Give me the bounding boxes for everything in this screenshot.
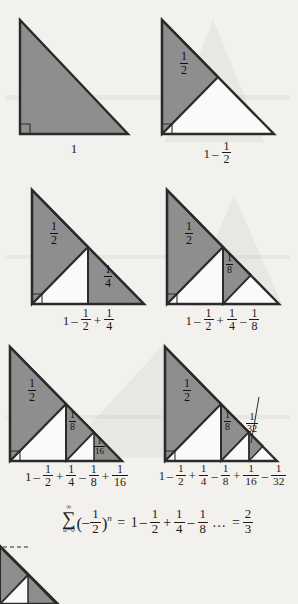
- label-one-half: 1 2: [28, 377, 36, 403]
- label-one-thirtysecond: 1 32: [246, 412, 258, 434]
- label-one-half: 1 2: [180, 50, 188, 76]
- sigma-operator: ∞ ∑ n=0: [62, 503, 76, 534]
- caption-fraction: 12: [176, 463, 186, 488]
- caption-fraction: 14: [227, 307, 237, 333]
- equals-sign-2: =: [232, 515, 240, 530]
- summation-formula: ∞ ∑ n=0 (–12)n = 1–12+14–18…=23: [62, 503, 254, 536]
- triangle-step-1: [18, 18, 130, 136]
- caption-step-3: 1–12+14: [16, 307, 162, 333]
- caption-fraction: 14: [66, 463, 76, 489]
- triangle-step-4: [165, 188, 281, 306]
- caption-step-6: 1–12+14–18+116–132: [148, 463, 298, 488]
- caption-fraction: 12: [222, 140, 232, 166]
- label-one-quarter: 1 4: [104, 263, 112, 289]
- caption-fraction: 18: [89, 463, 99, 489]
- formula-fraction: 12: [150, 508, 160, 536]
- caption-fraction: 132: [271, 463, 286, 488]
- caption-step-2: 1–12: [160, 140, 276, 166]
- caption-fraction: 116: [243, 463, 258, 488]
- caption-fraction: 18: [221, 463, 231, 488]
- triangle-step-2: [160, 18, 276, 136]
- formula-lead-term: 1: [131, 515, 138, 530]
- ellipsis: …: [212, 515, 227, 530]
- caption-fraction: 12: [204, 307, 214, 333]
- label-one-eighth: 1 8: [69, 410, 76, 432]
- label-one-eighth: 1 8: [224, 410, 231, 432]
- caption-term: 1: [71, 141, 78, 156]
- triangle-step-5: [8, 345, 124, 463]
- caption-fraction: 14: [104, 307, 114, 333]
- caption-step-5: 1–12+14–18+116: [2, 463, 152, 489]
- label-one-sixteenth: 1 16: [94, 437, 105, 460]
- label-one-half: 1 2: [50, 220, 58, 246]
- label-one-half: 1 2: [185, 220, 193, 246]
- label-one-eighth: 1 8: [226, 253, 233, 275]
- caption-fraction: 18: [249, 307, 259, 333]
- formula-fraction: 18: [198, 508, 208, 536]
- equals-sign: =: [117, 515, 125, 530]
- formula-result-fraction: 23: [243, 508, 253, 536]
- formula-fraction-base: 12: [90, 508, 100, 536]
- base-sign: –: [82, 515, 89, 530]
- exponent-n: n: [107, 513, 112, 523]
- caption-fraction: 116: [112, 463, 128, 489]
- caption-step-1: 1: [18, 142, 130, 155]
- caption-fraction: 12: [43, 463, 53, 489]
- formula-fraction: 14: [174, 508, 184, 536]
- shaded-region-whole: [20, 20, 128, 134]
- sum-lower-limit: n=0: [62, 526, 76, 534]
- triangle-step-6: [163, 345, 279, 463]
- caption-fraction: 14: [199, 463, 209, 488]
- triangle-step-3: [30, 188, 146, 306]
- sigma-glyph: ∑: [62, 511, 76, 527]
- triangle-step-7-cropped: [0, 548, 104, 604]
- caption-fraction: 12: [81, 307, 91, 333]
- label-one-half: 1 2: [183, 377, 191, 403]
- caption-step-4: 1–12+14–18: [148, 307, 298, 333]
